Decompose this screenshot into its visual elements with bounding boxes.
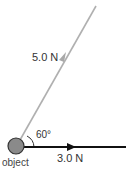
angle-arc [27, 136, 34, 147]
force-3n-label: 3.0 N [57, 153, 83, 164]
object-circle [8, 138, 24, 154]
force-3n-arrowhead [67, 143, 76, 151]
force-5n-label: 5.0 N [32, 52, 58, 63]
force-5n-line [20, 6, 96, 140]
angle-label: 60° [36, 130, 51, 140]
object-label: object [2, 158, 29, 168]
